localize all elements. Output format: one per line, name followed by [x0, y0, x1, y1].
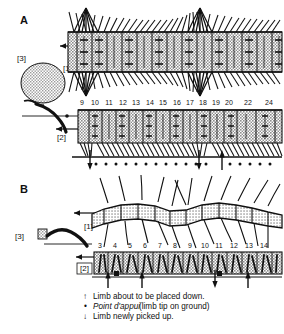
panel-b-segnum-9: 12 — [230, 242, 238, 249]
myriapod-gait-figure: A [3] [1] [2] — [0, 0, 284, 334]
panel-a-segnum-1: 10 — [91, 99, 99, 106]
panel-b-segnum-7: 10 — [201, 242, 209, 249]
legend-symbol-up-arrow: ↑ — [83, 292, 87, 301]
panel-a-segment-numbers: 9 10 11 12 13 14 15 16 17 18 19 20 22 24 — [80, 99, 273, 106]
panel-a-segnum-9: 18 — [199, 99, 207, 106]
legend-label-0: Limb about to be placed down. — [93, 292, 205, 301]
panel-a-segnum-13: 24 — [265, 99, 273, 106]
legend-label-1-italic: Point d'appui — [93, 302, 140, 311]
panel-b-segnum-3: 6 — [143, 242, 147, 249]
panel-b-segnum-0: 3 — [98, 242, 102, 249]
panel-a-segnum-0: 9 — [80, 99, 84, 106]
panel-a-segnum-3: 12 — [119, 99, 127, 106]
panel-a-segnum-10: 19 — [212, 99, 220, 106]
panel-b-letter: B — [20, 183, 28, 195]
legend-item-1: • Point d'appui (limb tip on ground) — [84, 302, 210, 311]
legend-item-0: ↑ Limb about to be placed down. — [83, 292, 205, 301]
panel-a-letter: A — [20, 14, 28, 26]
panel-b-segnum-5: 8 — [173, 242, 177, 249]
legend-symbol-down-arrow: ↓ — [83, 312, 87, 321]
panel-b-segnum-11: 14 — [260, 242, 268, 249]
panel-a-segnum-7: 16 — [173, 99, 181, 106]
panel-b-callout-2: [2] — [80, 264, 89, 273]
panel-a-callout-2: [2] — [57, 133, 66, 142]
legend-label-2: Limb newly picked up. — [93, 312, 174, 321]
panel-a-segnum-5: 14 — [146, 99, 154, 106]
panel-b-segnum-6: 9 — [188, 242, 192, 249]
panel-b-head-shape — [38, 229, 47, 239]
panel-a-head-shape — [21, 63, 65, 103]
panel-b-segnum-2: 5 — [128, 242, 132, 249]
panel-a-callout-3: [3] — [17, 54, 26, 63]
panel-a-segnum-6: 15 — [159, 99, 167, 106]
panel-b-segnum-1: 4 — [113, 242, 117, 249]
panel-b-callout-3: [3] — [15, 232, 24, 241]
panel-a-segnum-11: 20 — [225, 99, 233, 106]
panel-a-segnum-8: 17 — [186, 99, 194, 106]
panel-b-segnum-4: 7 — [158, 242, 162, 249]
panel-a-head-point-dot — [65, 114, 69, 118]
panel-a-segnum-12: 22 — [244, 99, 252, 106]
panel-a-segnum-4: 13 — [132, 99, 140, 106]
legend-item-2: ↓ Limb newly picked up. — [83, 312, 174, 321]
panel-b-segnum-10: 13 — [245, 242, 253, 249]
panel-a-segnum-2: 11 — [105, 99, 112, 106]
panel-b-segnum-8: 11 — [215, 242, 222, 249]
figure-root: A [3] [1] [2] — [0, 0, 284, 334]
legend-label-1: (limb tip on ground) — [139, 302, 210, 311]
legend-symbol-dot: • — [84, 302, 87, 311]
